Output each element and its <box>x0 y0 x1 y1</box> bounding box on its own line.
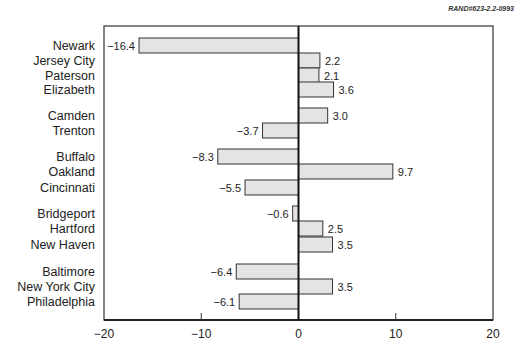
bar <box>245 180 298 195</box>
category-label: Bridgeport <box>37 207 95 221</box>
category-label: Hartford <box>50 222 95 236</box>
value-label: −6.4 <box>211 266 233 278</box>
bar <box>239 294 298 309</box>
bar <box>299 164 393 179</box>
bar <box>299 108 328 123</box>
bar <box>299 221 323 236</box>
value-label: 3.0 <box>333 110 348 122</box>
x-tick-label: 0 <box>295 327 302 341</box>
category-label: Cincinnati <box>40 181 95 195</box>
value-label: −5.5 <box>219 182 241 194</box>
value-label: 3.5 <box>338 239 353 251</box>
category-label: Trenton <box>52 124 95 138</box>
value-label: −16.4 <box>107 40 135 52</box>
bar <box>236 264 298 279</box>
bar <box>299 53 320 68</box>
category-label: Camden <box>48 109 95 123</box>
value-label: −8.3 <box>192 151 214 163</box>
value-label: −3.7 <box>237 125 259 137</box>
category-label: Buffalo <box>56 150 95 164</box>
value-label: 2.1 <box>324 70 339 82</box>
value-label: 3.5 <box>338 281 353 293</box>
category-label: Baltimore <box>42 265 95 279</box>
bar <box>263 123 299 138</box>
bar <box>218 149 299 164</box>
bar <box>299 68 319 83</box>
x-tick-label: −10 <box>191 327 212 341</box>
bars-layer <box>139 38 393 309</box>
category-label: New Haven <box>30 238 95 252</box>
category-label: Newark <box>53 39 96 53</box>
x-tick-label: −20 <box>94 327 115 341</box>
x-tick-label: 20 <box>486 327 500 341</box>
bar <box>299 82 334 97</box>
value-label: 3.6 <box>339 84 354 96</box>
bar <box>139 38 298 53</box>
value-label: −6.1 <box>213 296 235 308</box>
x-tick-label: 10 <box>389 327 403 341</box>
value-label: 2.5 <box>328 223 343 235</box>
value-label: 9.7 <box>398 166 413 178</box>
bar-chart: −20−1001020Newark−16.4Jersey City2.2Pate… <box>0 0 524 357</box>
category-label: Elizabeth <box>44 83 95 97</box>
value-label: 2.2 <box>325 55 340 67</box>
value-label: −0.6 <box>267 208 289 220</box>
category-label: Jersey City <box>33 54 96 68</box>
category-label: Paterson <box>45 69 95 83</box>
bar <box>299 279 333 294</box>
category-label: Oakland <box>48 165 95 179</box>
category-label: Philadelphia <box>27 295 95 309</box>
bar <box>299 237 333 252</box>
category-label: New York City <box>17 280 96 294</box>
axes-layer <box>104 26 493 320</box>
